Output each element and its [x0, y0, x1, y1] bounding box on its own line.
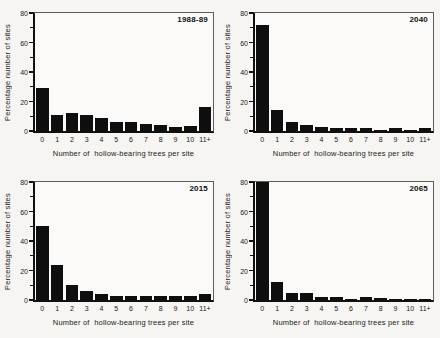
x-axis-title: Number of hollow-bearing trees per site	[253, 149, 434, 158]
x-tick-label: 5	[114, 136, 118, 143]
bar-8	[374, 298, 387, 300]
y-tick-label: 40	[240, 238, 248, 245]
y-major-tick	[29, 299, 34, 300]
y-major-tick	[249, 42, 254, 43]
bar-1	[271, 282, 284, 300]
year-label: 2040	[409, 15, 428, 24]
x-tick-label: 1	[275, 136, 279, 143]
bar-0	[36, 226, 49, 300]
y-major-tick	[249, 211, 254, 212]
y-axis-title: Percentage number of sites	[222, 12, 233, 133]
y-minor-tick	[30, 196, 33, 197]
x-tick-label: 1	[55, 136, 59, 143]
x-tick-label: 6	[129, 136, 133, 143]
x-tick-labels: 01234567891011+	[33, 136, 214, 145]
bar-11+	[199, 294, 212, 300]
y-major-tick	[249, 270, 254, 271]
y-tick-label: 80	[20, 10, 28, 17]
y-minor-tick	[30, 86, 33, 87]
y-tick-label: 60	[20, 39, 28, 46]
y-tick-label: 40	[20, 69, 28, 76]
x-tick-label: 8	[159, 136, 163, 143]
x-tick-label: 6	[349, 136, 353, 143]
bar-5	[330, 297, 343, 300]
bar-9	[169, 296, 182, 300]
x-tick-label: 10	[406, 305, 414, 312]
x-tick-label: 2	[70, 305, 74, 312]
y-major-tick	[249, 130, 254, 131]
x-tick-label: 1	[275, 305, 279, 312]
y-tick-label: 60	[240, 208, 248, 215]
bar-2	[66, 113, 79, 131]
x-tick-labels: 01234567891011+	[253, 305, 434, 314]
y-tick-label: 40	[240, 69, 248, 76]
y-minor-tick	[250, 285, 253, 286]
x-tick-label: 8	[159, 305, 163, 312]
x-tick-labels: 01234567891011+	[253, 136, 434, 145]
y-tick-label: 20	[20, 267, 28, 274]
bar-6	[125, 122, 138, 131]
y-tick-label: 80	[240, 179, 248, 186]
x-tick-label: 5	[334, 305, 338, 312]
x-axis-title: Number of hollow-bearing trees per site	[33, 318, 214, 327]
x-tick-label: 11+	[199, 305, 210, 312]
year-label: 2065	[409, 184, 428, 193]
y-major-tick	[249, 240, 254, 241]
plot-area: 2015 020406080	[33, 181, 214, 302]
y-tick-label: 40	[20, 238, 28, 245]
bar-5	[110, 122, 123, 131]
x-tick-label: 1	[55, 305, 59, 312]
bar-2	[286, 122, 299, 131]
y-minor-tick	[30, 57, 33, 58]
bar-6	[345, 299, 358, 300]
y-minor-tick	[250, 27, 253, 28]
x-tick-labels: 01234567891011+	[33, 305, 214, 314]
x-tick-label: 11+	[199, 136, 210, 143]
x-tick-label: 6	[349, 305, 353, 312]
y-axis-title: Percentage number of sites	[222, 181, 233, 302]
y-major-tick	[29, 181, 34, 182]
y-minor-tick	[250, 226, 253, 227]
bar-11+	[419, 128, 432, 131]
y-major-tick	[29, 12, 34, 13]
chart-panel-1988-89: Percentage number of sites 1988-89 02040…	[0, 0, 220, 169]
bar-4	[315, 127, 328, 131]
y-tick-label: 60	[240, 39, 248, 46]
year-label: 1988-89	[177, 15, 208, 24]
bar-4	[95, 294, 108, 300]
x-tick-label: 4	[100, 136, 104, 143]
x-tick-label: 6	[129, 305, 133, 312]
y-axis-title: Percentage number of sites	[2, 181, 13, 302]
y-tick-label: 80	[240, 10, 248, 17]
x-tick-label: 9	[173, 136, 177, 143]
y-major-tick	[249, 181, 254, 182]
x-tick-label: 3	[305, 305, 309, 312]
y-major-tick	[29, 130, 34, 131]
x-tick-label: 7	[144, 136, 148, 143]
bar-8	[154, 296, 167, 300]
bar-2	[66, 285, 79, 300]
x-tick-label: 5	[114, 305, 118, 312]
bar-3	[80, 115, 93, 131]
bar-4	[95, 118, 108, 131]
plot-area: 2040 020406080	[253, 12, 434, 133]
bar-0	[36, 88, 49, 131]
x-tick-label: 9	[393, 305, 397, 312]
bar-7	[360, 297, 373, 300]
bar-10	[404, 130, 417, 131]
y-tick-label: 0	[24, 297, 28, 304]
bar-10	[184, 296, 197, 300]
y-major-tick	[29, 211, 34, 212]
plot-area: 1988-89 020406080	[33, 12, 214, 133]
bar-7	[140, 296, 153, 300]
y-tick-label: 20	[20, 98, 28, 105]
y-major-tick	[29, 101, 34, 102]
y-tick-label: 20	[240, 98, 248, 105]
x-tick-label: 5	[334, 136, 338, 143]
y-tick-label: 20	[240, 267, 248, 274]
y-major-tick	[249, 12, 254, 13]
y-tick-label: 0	[244, 128, 248, 135]
y-minor-tick	[30, 255, 33, 256]
bar-3	[80, 291, 93, 300]
bar-0	[256, 25, 269, 131]
